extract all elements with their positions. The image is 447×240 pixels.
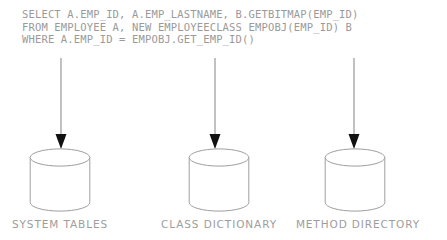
node-label-system-tables: SYSTEM TABLES [6, 218, 114, 230]
sql-line-where: WHERE A.EMP_ID = EMPOBJ.GET_EMP_ID() [22, 33, 432, 46]
diagram-canvas: SELECT A.EMP_ID, A.EMP_LASTNAME, B.GETBI… [0, 0, 447, 240]
down-arrow-icon [347, 58, 361, 150]
sql-statement-block: SELECT A.EMP_ID, A.EMP_LASTNAME, B.GETBI… [22, 8, 432, 46]
node-label-class-dictionary: CLASS DICTIONARY [155, 218, 283, 230]
sql-line-from: FROM EMPLOYEE A, NEW EMPLOYEECLASS EMPOB… [22, 21, 432, 34]
database-cylinder-icon [29, 148, 91, 212]
node-label-method-directory: METHOD DIRECTORY [290, 218, 426, 230]
database-cylinder-icon [188, 148, 250, 212]
database-cylinder-icon [324, 148, 386, 212]
down-arrow-icon [208, 58, 222, 150]
sql-line-select: SELECT A.EMP_ID, A.EMP_LASTNAME, B.GETBI… [22, 8, 432, 21]
down-arrow-icon [54, 58, 68, 150]
